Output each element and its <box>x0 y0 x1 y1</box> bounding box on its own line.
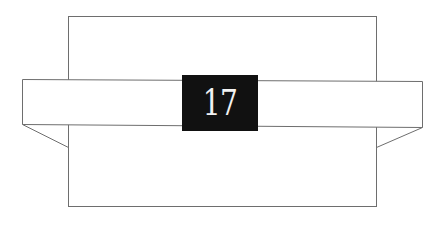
left-fold-line <box>23 125 69 148</box>
right-fold-line <box>377 128 423 148</box>
number-label-text: 17 <box>203 85 237 121</box>
number-label: 17 <box>182 75 258 131</box>
